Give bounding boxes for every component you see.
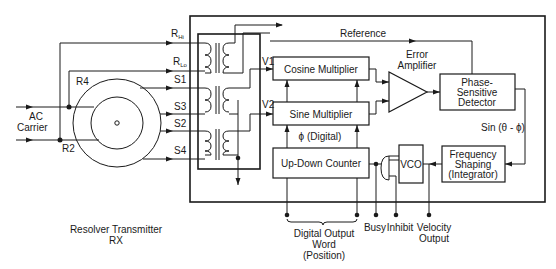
shaping-label-3: (Integrator)	[448, 169, 497, 180]
error-amplifier	[389, 72, 440, 112]
reference-label: Reference	[340, 28, 387, 39]
terminal-r4: R4	[76, 76, 89, 87]
r-lo-label: RLo	[173, 56, 188, 68]
sine-multiplier-block: Sine Multiplier	[273, 102, 369, 125]
resolver-label-1: Resolver Transmitter	[70, 224, 163, 235]
reference-transformer	[205, 43, 229, 73]
vco-label: VCO	[400, 159, 422, 170]
terminal-s4: S4	[174, 145, 187, 156]
sine-multiplier-label: Sine Multiplier	[290, 109, 353, 120]
terminal-s2: S2	[174, 118, 187, 129]
vco-block: VCO	[399, 145, 423, 183]
velocity-label-2: Output	[419, 233, 449, 244]
cosine-transformer	[205, 86, 229, 114]
output-word-label-1: Digital Output	[294, 228, 355, 239]
output-word-label-2: Word	[312, 239, 336, 250]
inhibit-gate	[369, 156, 399, 217]
ac-carrier-label-1: AC	[29, 111, 43, 122]
resolver-label-2: RX	[109, 235, 123, 246]
multiplier-to-amp	[369, 69, 389, 114]
resolver-transmitter	[73, 79, 161, 167]
error-amp-label-1: Error	[406, 49, 429, 60]
velocity-output-line	[427, 164, 432, 217]
phi-digital-label: ϕ (Digital)	[299, 131, 342, 142]
terminal-s1: S1	[174, 74, 187, 85]
up-down-counter-label: Up-Down Counter	[281, 158, 362, 169]
resolver-to-digital-diagram: Cosine Multiplier Sine Multiplier Up-Dow…	[0, 0, 556, 269]
terminal-s3: S3	[174, 101, 187, 112]
cosine-multiplier-label: Cosine Multiplier	[284, 64, 359, 75]
velocity-label-1: Velocity	[417, 222, 451, 233]
v1-label: V1	[262, 56, 275, 67]
sine-transformer	[205, 129, 229, 160]
cosine-multiplier-block: Cosine Multiplier	[273, 57, 369, 80]
v2-label: V2	[262, 99, 275, 110]
psd-label-3: Detector	[458, 97, 496, 108]
busy-label: Busy	[364, 222, 386, 233]
error-amp-label-2: Amplifier	[398, 60, 438, 71]
output-word-brace	[287, 219, 357, 225]
r-hi-label: RHi	[171, 28, 184, 40]
output-word-label-3: (Position)	[303, 250, 345, 261]
terminal-r2: R2	[62, 143, 75, 154]
sin-error-label: Sin (θ - ϕ)	[481, 122, 525, 133]
stator-lines	[140, 86, 205, 162]
inhibit-label: Inhibit	[387, 222, 414, 233]
up-down-counter-block: Up-Down Counter	[273, 148, 369, 178]
ac-carrier-label-2: Carrier	[17, 122, 48, 133]
